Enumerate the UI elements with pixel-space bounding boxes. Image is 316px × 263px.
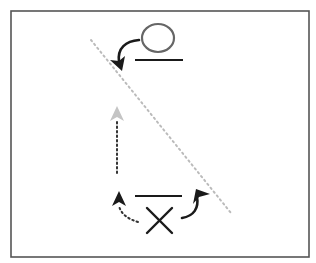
diagram-canvas bbox=[0, 0, 316, 263]
